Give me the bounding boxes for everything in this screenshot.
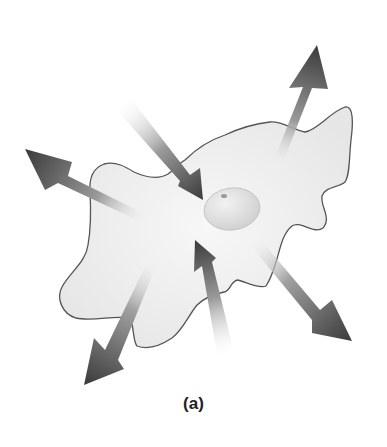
nucleolus bbox=[221, 194, 227, 198]
cell-diagram bbox=[0, 0, 387, 447]
figure-caption: (a) bbox=[0, 394, 387, 414]
